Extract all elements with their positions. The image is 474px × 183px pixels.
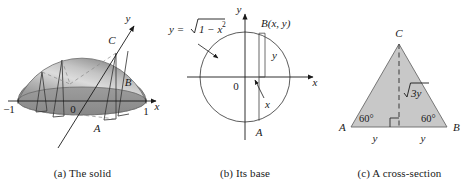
panel-c-cross-section: A B C 60° 60° y y 3y (c) A cross-section [325,0,474,183]
panel-a-solid: y x 0 −1 1 A B C (a) The solid [0,0,165,183]
curve-equation: y = 1 − x 2 [168,19,226,35]
panel-c-caption: (c) A cross-section [325,167,474,179]
curve-equation-radicand: 1 − x [199,23,222,35]
panel-b-base: y = 1 − x 2 y x 0 B(x, y) A y x (b) Its … [165,0,325,183]
panel-b-point-a-label: A [255,126,263,138]
panel-a-point-b-label: B [125,76,132,88]
segment-x-leader [255,80,264,98]
triangle-angle-right-label: 60° [421,113,436,124]
panel-b-origin-label: 0 [233,80,239,92]
triangle-vertex-a-label: A [338,121,346,133]
panel-b-diagram: y = 1 − x 2 y x 0 B(x, y) A y x [165,0,325,155]
panel-a-diagram: y x 0 −1 1 A B C [0,0,165,155]
panel-b-axis-y-label: y [236,3,242,15]
panel-a-caption: (a) The solid [0,167,165,179]
panel-b-segment-x-label: x [264,98,270,110]
panel-a-tick-right-label: 1 [143,105,149,117]
panel-a-axis-x-label: x [154,100,160,112]
panel-a-axis-y-label: y [125,12,131,24]
triangle-base-right-label: y [420,132,426,144]
panel-a-tick-left-label: −1 [3,103,15,115]
curve-equation-lhs: y = [168,23,184,35]
panel-a-origin-label: 0 [70,103,76,115]
panel-b-segment-y-label: y [271,49,277,61]
panel-b-point-b-label: B(x, y) [261,17,291,30]
triangle-angle-left-label: 60° [359,113,374,124]
panel-b-axis-x-label: x [312,76,318,88]
panel-b-caption: (b) Its base [165,167,325,179]
curve-equation-leader [198,44,218,58]
triangle-vertex-c-label: C [395,27,403,39]
curve-equation-exponent: 2 [222,20,226,29]
figure-volume-cross-sections: y x 0 −1 1 A B C (a) The solid [0,0,474,183]
triangle-height-value: 3y [410,87,422,99]
panel-a-point-c-label: C [108,34,116,46]
triangle-base-left-label: y [372,132,378,144]
panel-c-diagram: A B C 60° 60° y y 3y [325,0,474,155]
panel-a-point-a-label: A [93,122,101,134]
triangle-vertex-b-label: B [453,121,460,133]
